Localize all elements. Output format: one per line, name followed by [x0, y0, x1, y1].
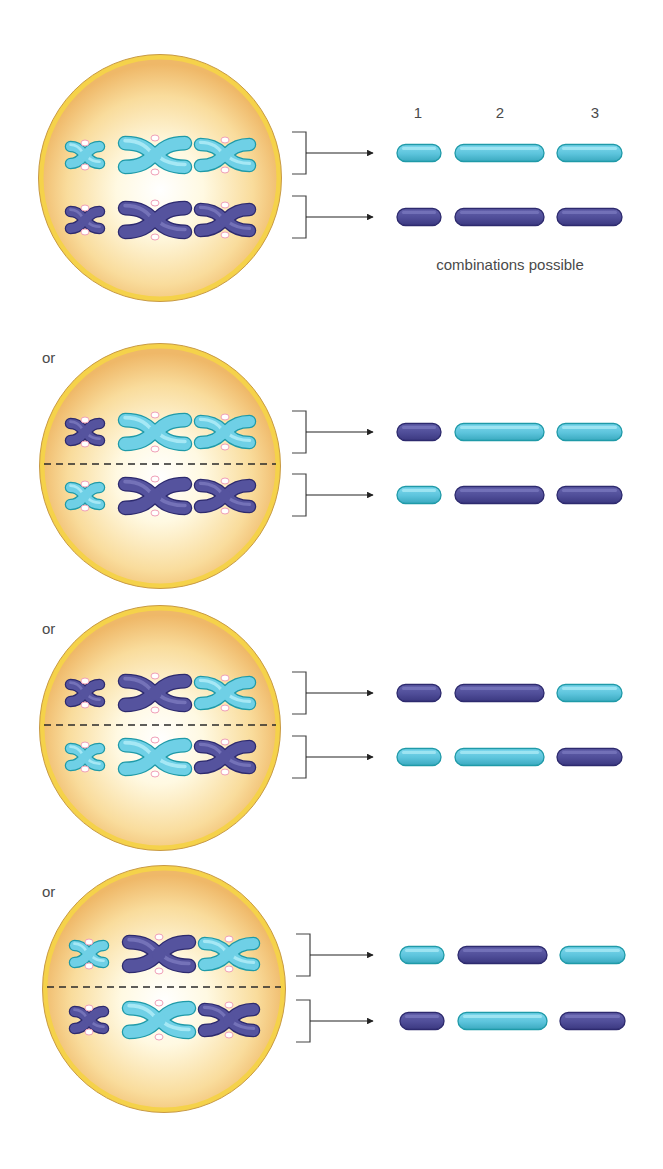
centromere-icon [81, 505, 89, 511]
arrangement-3: or [40, 606, 623, 851]
bracket-arrow [292, 672, 373, 714]
bracket-arrow [292, 132, 373, 174]
centromere-icon [151, 135, 159, 141]
centromere-icon [81, 678, 89, 684]
bracket-arrow [292, 736, 373, 778]
centromere-icon [85, 1029, 93, 1035]
column-header: 1 2 3 [414, 104, 599, 121]
arrangement-2: or [40, 344, 623, 589]
cell-body [42, 608, 278, 848]
column-label-1: 1 [414, 104, 422, 121]
centromere-icon [81, 441, 89, 447]
centromere-icon [221, 508, 229, 514]
bracket-arrow [292, 196, 373, 238]
gamete-row-bottom [397, 209, 622, 226]
column-label-3: 3 [591, 104, 599, 121]
centromere-icon [151, 673, 159, 679]
centromere-icon [221, 202, 229, 208]
gamete-row-top [397, 145, 622, 162]
centromere-icon [81, 140, 89, 146]
centromere-icon [151, 412, 159, 418]
bracket-arrow [296, 934, 373, 976]
centromere-icon [81, 417, 89, 423]
centromere-icon [225, 966, 233, 972]
or-label: or [42, 349, 55, 366]
independent-assortment-diagram: 1 2 3 combinations possible ororor [0, 0, 663, 1169]
arrangements-container: ororor [39, 55, 626, 1113]
or-label: or [42, 620, 55, 637]
centromere-icon [155, 1000, 163, 1006]
gamete-row-top [397, 685, 622, 702]
bracket-arrow [292, 474, 373, 516]
gamete-row-bottom [400, 1013, 625, 1030]
centromere-icon [151, 169, 159, 175]
centromere-icon [221, 232, 229, 238]
bracket-arrow [292, 411, 373, 453]
centromere-icon [151, 446, 159, 452]
centromere-icon [155, 1034, 163, 1040]
centromere-icon [221, 444, 229, 450]
centromere-icon [151, 234, 159, 240]
centromere-icon [81, 229, 89, 235]
centromere-icon [225, 1032, 233, 1038]
arrangement-4: or [42, 866, 625, 1113]
centromere-icon [221, 675, 229, 681]
centromere-icon [151, 200, 159, 206]
centromere-icon [151, 510, 159, 516]
centromere-icon [81, 742, 89, 748]
centromere-icon [81, 702, 89, 708]
centromere-icon [81, 481, 89, 487]
gamete-row-bottom [397, 487, 622, 504]
or-label: or [42, 883, 55, 900]
bracket-arrow [296, 1000, 373, 1042]
centromere-icon [221, 167, 229, 173]
combinations-caption: combinations possible [436, 256, 584, 273]
centromere-icon [221, 739, 229, 745]
cell-body [42, 346, 278, 586]
centromere-icon [81, 766, 89, 772]
cell-body [45, 868, 283, 1110]
centromere-icon [155, 934, 163, 940]
centromere-icon [221, 769, 229, 775]
centromere-icon [225, 1002, 233, 1008]
gamete-row-bottom [397, 749, 622, 766]
gamete-row-top [400, 947, 625, 964]
centromere-icon [151, 476, 159, 482]
cell-body [41, 57, 279, 299]
centromere-icon [85, 963, 93, 969]
centromere-icon [81, 164, 89, 170]
gamete-row-top [397, 424, 622, 441]
centromere-icon [151, 737, 159, 743]
column-label-2: 2 [496, 104, 504, 121]
centromere-icon [151, 707, 159, 713]
centromere-icon [221, 414, 229, 420]
centromere-icon [81, 205, 89, 211]
centromere-icon [221, 478, 229, 484]
centromere-icon [221, 705, 229, 711]
centromere-icon [85, 939, 93, 945]
centromere-icon [151, 771, 159, 777]
centromere-icon [221, 137, 229, 143]
centromere-icon [85, 1005, 93, 1011]
centromere-icon [155, 968, 163, 974]
centromere-icon [225, 936, 233, 942]
